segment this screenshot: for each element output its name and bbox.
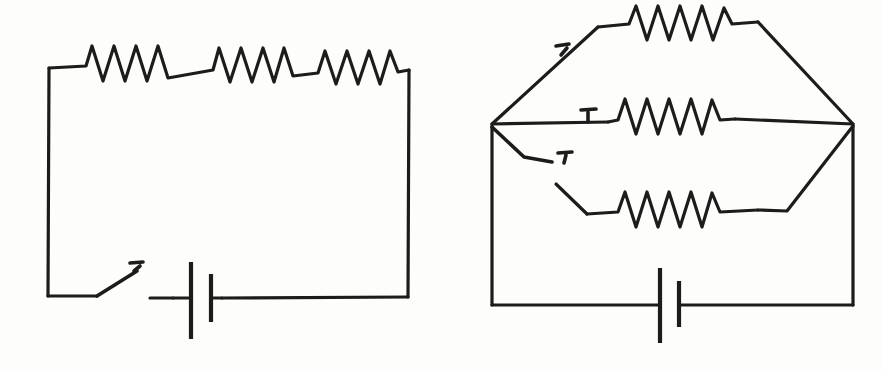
switch-bottom-branch-contact-bar [558, 152, 572, 153]
top-branch-right-diagonal [758, 22, 853, 124]
switch-top-branch-contact-post [561, 48, 567, 55]
bottom-branch-left-diagonal [556, 184, 587, 214]
left-circuit-left-rail [48, 68, 49, 296]
left-circuit-top-rail [49, 46, 409, 84]
left-circuit [48, 46, 409, 339]
right-circuit [492, 6, 853, 343]
switch-middle-branch-contact-bar [581, 109, 596, 110]
switch-top-branch-contact-bar [556, 44, 569, 46]
schematic-svg [0, 0, 882, 372]
middle-branch-left-wire [492, 122, 608, 124]
middle-branch-resistor [608, 99, 735, 134]
left-circuit-right-rail [408, 70, 409, 297]
middle-branch-right-wire [735, 119, 853, 124]
bottom-branch-right-diagonal [758, 126, 853, 211]
bottom-branch-resistor [587, 192, 758, 227]
left-circuit-bottom-right-rail [222, 297, 408, 298]
switch-bottom-branch-contact-post [564, 155, 566, 163]
switch-main-contact-bar [130, 262, 143, 263]
schematic-canvas [0, 0, 882, 372]
switch-main-lever[interactable] [97, 271, 137, 296]
switch-main-contact-post [134, 266, 140, 271]
top-branch-resistor [598, 6, 758, 40]
switch-bottom-branch-lever[interactable] [492, 127, 552, 162]
